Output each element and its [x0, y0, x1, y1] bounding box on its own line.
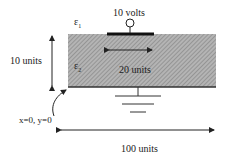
ground-icon [115, 87, 161, 112]
epsilon-2-label: ε2 [74, 61, 81, 73]
strip-width-label: 20 units [119, 65, 151, 75]
voltage-terminal-icon [126, 19, 134, 27]
diagram-canvas [0, 0, 227, 164]
height-label: 10 units [10, 56, 42, 66]
origin-label: x=0, y=0 [19, 116, 52, 125]
origin-pointer-arrow [53, 90, 66, 116]
voltage-label: 10 volts [113, 8, 145, 18]
epsilon-1-label: ε1 [74, 17, 81, 29]
total-width-label: 100 units [121, 144, 158, 154]
dielectric-substrate [68, 34, 216, 87]
